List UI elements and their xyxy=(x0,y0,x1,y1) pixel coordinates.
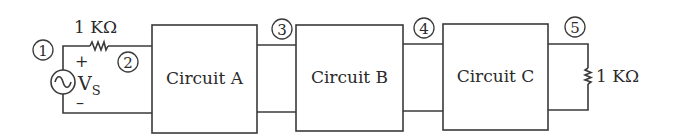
node-3-marker: 3 xyxy=(272,19,292,39)
block-circuit-c-label: Circuit C xyxy=(457,66,535,86)
node-4-marker: 4 xyxy=(414,18,434,38)
block-circuit-b-label: Circuit B xyxy=(311,67,388,87)
source-plus-sign: + xyxy=(75,52,88,71)
load-resistor-label: 1 KΩ xyxy=(596,66,639,86)
source-label-main: V xyxy=(77,72,92,94)
wires-b-to-c xyxy=(403,44,443,111)
load-resistor-icon xyxy=(585,68,591,84)
block-circuit-a: Circuit A xyxy=(152,25,257,133)
block-circuit-b: Circuit B xyxy=(296,25,403,131)
node-1-label: 1 xyxy=(38,42,48,60)
node-5-marker: 5 xyxy=(565,17,585,37)
block-circuit-a-label: Circuit A xyxy=(166,68,244,88)
block-circuit-c: Circuit C xyxy=(443,24,548,130)
series-resistor-label: 1 KΩ xyxy=(74,17,117,37)
node-5-label: 5 xyxy=(570,19,580,37)
circuit-diagram: 1 KΩ + – VS 1 2 Circuit A 3 Circuit B xyxy=(0,0,678,140)
wires-a-to-b xyxy=(257,45,296,112)
node-3-label: 3 xyxy=(277,21,287,39)
node-2-marker: 2 xyxy=(118,52,138,72)
load-wires xyxy=(548,44,588,110)
node-4-label: 4 xyxy=(419,20,429,38)
source-label-subscript: S xyxy=(92,83,101,98)
node-1-marker: 1 xyxy=(33,40,53,60)
ac-voltage-source-icon xyxy=(51,70,75,94)
source-minus-sign: – xyxy=(76,93,84,112)
node-2-label: 2 xyxy=(123,54,133,72)
series-resistor-icon xyxy=(90,42,108,50)
